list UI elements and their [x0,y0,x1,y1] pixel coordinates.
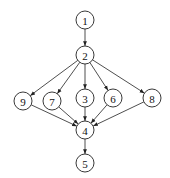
node-5: 5 [76,154,94,172]
node-9: 9 [14,92,32,110]
node-3: 3 [76,89,94,107]
node-8: 8 [143,89,161,107]
node-label: 1 [82,15,88,27]
node-1: 1 [76,11,94,29]
node-label: 3 [82,93,88,105]
node-label: 6 [110,93,116,105]
node-6: 6 [104,89,122,107]
node-label: 7 [49,96,55,108]
edge-2-to-9 [30,60,78,95]
node-label: 2 [82,50,88,62]
edge-2-to-6 [90,63,108,91]
node-label: 5 [82,158,88,170]
edge-2-to-8 [93,60,145,93]
node-7: 7 [43,92,61,110]
node-label: 8 [149,93,155,105]
edge-7-to-4 [59,107,78,124]
node-4: 4 [76,121,94,139]
node-2: 2 [76,46,94,64]
node-label: 4 [82,125,88,137]
node-label: 9 [20,96,26,108]
directed-graph: 129736845 [0,0,170,178]
